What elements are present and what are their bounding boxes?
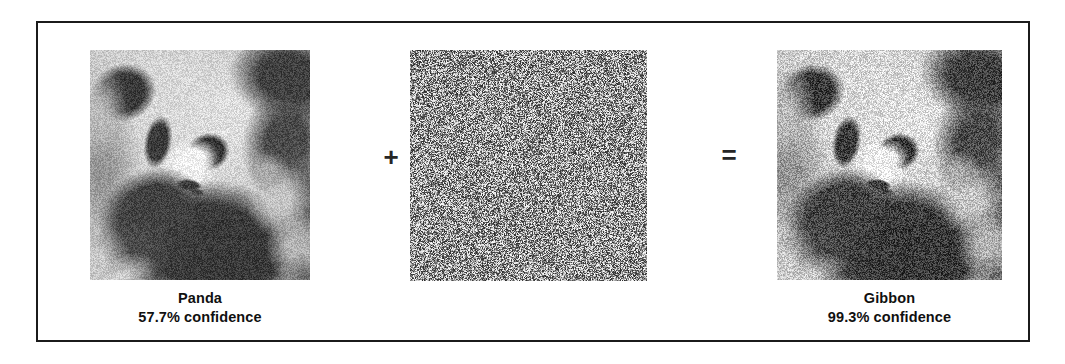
original-panda-image (90, 50, 310, 280)
adversarial-noise-image (410, 50, 647, 281)
equals-operator-icon: = (712, 142, 746, 168)
panel-original-image: Panda 57.7% confidence (90, 50, 310, 327)
panel-noise-image (410, 50, 647, 281)
caption-adversarial: Gibbon 99.3% confidence (777, 289, 1002, 327)
plus-operator-icon: + (374, 144, 408, 170)
adversarial-panda-image (777, 50, 1002, 280)
confidence-original: 57.7% confidence (90, 308, 310, 327)
panel-adversarial-image: Gibbon 99.3% confidence (777, 50, 1002, 327)
caption-original: Panda 57.7% confidence (90, 289, 310, 327)
label-adversarial: Gibbon (864, 290, 915, 306)
figure-frame: Panda 57.7% confidence + = Gibbon 99.3% … (36, 21, 1030, 342)
label-original: Panda (178, 290, 222, 306)
confidence-adversarial: 99.3% confidence (777, 308, 1002, 327)
